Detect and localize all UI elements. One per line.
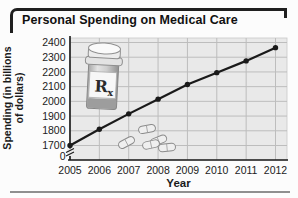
bottle-bottom-band	[87, 98, 116, 109]
bottom-divider	[10, 191, 290, 193]
y-tick-label: 1800	[42, 124, 66, 136]
data-point	[243, 58, 248, 63]
x-tick-label: 2010	[205, 164, 229, 176]
y-tick-label: 1900	[42, 110, 66, 122]
chart-svg: 0170018001900200021002200230024002005200…	[0, 0, 298, 198]
y-tick-label: 2000	[42, 95, 66, 107]
rx-bottle-illustration: Rx	[83, 42, 123, 110]
y-tick-label: 2400	[42, 36, 66, 48]
y-axis-title-line1: Spending (in billions	[1, 46, 13, 149]
x-tick-label: 2009	[176, 164, 200, 176]
data-point	[126, 111, 131, 116]
y-tick-label: 2200	[42, 66, 66, 78]
y-tick-label: 0	[60, 150, 66, 162]
rx-subscript: x	[107, 87, 114, 98]
y-tick-label: 2300	[42, 51, 66, 63]
pill-illustration	[158, 143, 176, 152]
data-point	[185, 82, 190, 87]
y-axis-title-line2: of dollars)	[13, 73, 25, 124]
x-tick-label: 2005	[58, 164, 82, 176]
x-tick-label: 2007	[117, 164, 141, 176]
x-tick-label: 2008	[146, 164, 170, 176]
y-tick-label: 2100	[42, 80, 66, 92]
figure-card: Personal Spending on Medical Care 017001…	[0, 0, 298, 198]
x-tick-label: 2006	[88, 164, 112, 176]
y-tick-label: 1700	[42, 139, 66, 151]
data-point	[273, 45, 278, 50]
x-tick-label: 2012	[264, 164, 288, 176]
data-point	[214, 70, 219, 75]
data-point	[97, 127, 102, 132]
x-tick-label: 2011	[235, 164, 258, 176]
x-axis-title: Year	[166, 177, 191, 189]
data-point	[67, 143, 72, 148]
data-point	[155, 96, 160, 101]
